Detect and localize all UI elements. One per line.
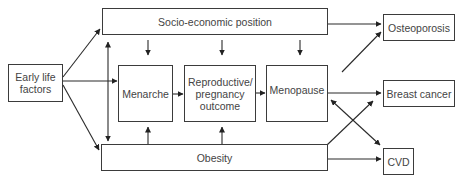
node-breast-cancer: Breast cancer: [383, 80, 455, 107]
arrow-menopause-to-osteoporosis: [342, 32, 381, 72]
node-label: Breast cancer: [387, 88, 452, 100]
node-label: Socio-economic position: [158, 16, 272, 28]
node-obesity: Obesity: [101, 144, 328, 171]
arrow-early-to-obesity: [63, 85, 99, 150]
node-label: Early life factors: [14, 71, 58, 95]
node-label: Obesity: [197, 152, 233, 164]
node-early-life-factors: Early life factors: [8, 64, 63, 102]
node-cvd: CVD: [383, 148, 414, 175]
node-label: Osteoporosis: [388, 22, 450, 34]
node-socio-economic-position: Socio-economic position: [102, 8, 328, 35]
node-label: Menopause: [270, 84, 325, 96]
node-label: Reproductive/ pregnancy outcome: [188, 76, 252, 112]
node-label: CVD: [387, 156, 409, 168]
node-menarche: Menarche: [118, 65, 173, 122]
node-label: Menarche: [122, 88, 169, 100]
arrow-obesity-to-breast-cancer: [327, 101, 373, 145]
arrow-early-to-sep: [63, 29, 100, 77]
node-menopause: Menopause: [266, 65, 328, 122]
node-osteoporosis: Osteoporosis: [383, 14, 455, 41]
arrow-menopause-cvd: [331, 100, 380, 145]
node-reproductive-pregnancy-outcome: Reproductive/ pregnancy outcome: [184, 65, 256, 122]
